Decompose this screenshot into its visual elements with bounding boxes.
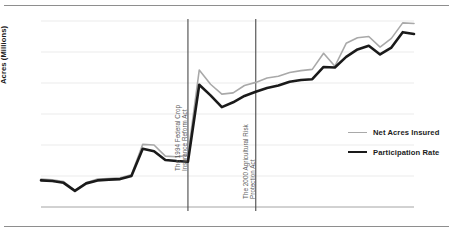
legend-swatch-icon (348, 151, 367, 153)
annotation-label: The 2000 Agricultural RiskProtection Act (242, 124, 257, 199)
legend-item-net-acres-insured: Net Acres Insured (348, 122, 439, 142)
legend-label: Net Acres Insured (373, 128, 439, 137)
chart-legend: Net Acres Insured Participation Rate (348, 122, 439, 162)
annotation-label: The 1994 Federal CropInsurance Reform Ac… (174, 105, 189, 171)
bottom-divider-rule (4, 226, 449, 227)
x-axis-tick-label: 1997 (214, 231, 230, 232)
legend-swatch-icon (348, 132, 367, 133)
annotation-line-1: The 1994 Federal Crop (174, 105, 181, 171)
chart-canvas (41, 21, 414, 207)
series-lines (41, 23, 414, 191)
x-axis-tick-label: 2001 (259, 231, 275, 232)
annotation-line-2: Insurance Reform Act (181, 105, 188, 171)
plot-area: 050100150200250300 0%10%20%30%40%50%60%7… (41, 21, 414, 207)
chart-figure: Acres (Millions) 050100150200250300 0%10… (0, 0, 453, 232)
x-axis-tick-label: 1985 (78, 231, 94, 232)
x-axis-tick-label: 2013 (394, 231, 410, 232)
top-divider-rule (4, 5, 449, 6)
y-axis-title: Acres (Millions) (0, 26, 8, 84)
x-axis-tick-label: 2005 (304, 231, 320, 232)
x-axis-tick-label: 1989 (123, 231, 139, 232)
annotation-line-2: Protection Act (249, 124, 256, 199)
legend-item-participation-rate: Participation Rate (348, 142, 439, 162)
annotation-line-1: The 2000 Agricultural Risk (242, 124, 249, 199)
legend-label: Participation Rate (373, 148, 439, 157)
x-axis-tick-label: 1981 (33, 231, 49, 232)
x-axis-tick-label: 1993 (168, 231, 184, 232)
x-axis-tick-label: 2009 (349, 231, 365, 232)
